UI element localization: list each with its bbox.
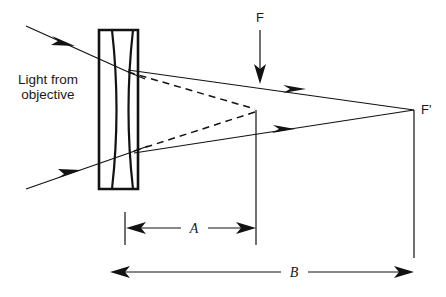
ray-diagram-canvas: F F' Light from objective A xyxy=(0,0,446,297)
ray-arrow-head-icon xyxy=(283,85,306,93)
ray-arrow-head-icon xyxy=(272,125,295,133)
virtual-ray-upper-dashed xyxy=(128,72,255,109)
incoming-ray-lower xyxy=(26,152,132,189)
dimension-B xyxy=(110,266,414,278)
label-source-line2: objective xyxy=(21,87,74,102)
ray-arrow-head-icon xyxy=(58,169,81,178)
label-dimension-b: B xyxy=(290,265,299,280)
ray-arrow-head-icon xyxy=(51,36,75,46)
biconcave-lens-element xyxy=(112,30,133,189)
refracted-ray-lower xyxy=(134,110,414,153)
label-source-line1: Light from xyxy=(18,72,78,87)
virtual-ray-lower-dashed xyxy=(134,112,255,151)
lens-surface-front xyxy=(112,30,117,189)
incoming-ray-upper xyxy=(26,26,126,71)
label-focal-real: F' xyxy=(421,102,431,117)
refracted-ray-upper xyxy=(128,70,414,110)
optical-diagram-figure: F F' Light from objective A xyxy=(0,0,446,297)
label-dimension-a: A xyxy=(189,221,199,236)
focal-point-F-marker xyxy=(254,30,266,84)
lens-mount xyxy=(99,30,138,189)
label-focal-virtual: F xyxy=(256,10,264,25)
lens-surface-back xyxy=(129,30,134,189)
